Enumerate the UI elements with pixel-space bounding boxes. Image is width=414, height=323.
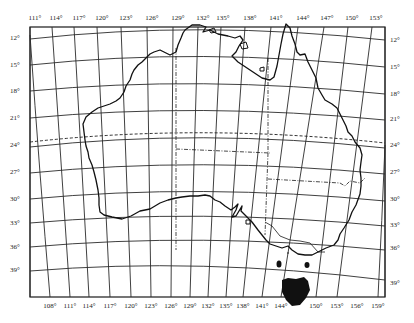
latitude-label: 21° [390,115,400,123]
latitude-label: 12° [390,36,400,44]
longitude-label: 117° [103,302,116,310]
latitude-label: 30° [10,195,20,203]
longitude-label: 141° [269,14,282,22]
tasmania [277,252,311,306]
latitude-label: 18° [10,87,20,95]
latitude-label: 24° [390,141,400,149]
longitude-label: 129° [183,302,196,310]
longitude-label: 141° [255,302,268,310]
vic-nsw-border [265,222,325,252]
longitude-label: 132° [201,302,214,310]
longitude-label: 111° [29,14,42,22]
longitude-label: 138° [243,14,256,22]
latitude-grid-lines [30,30,385,280]
longitude-label: 108° [43,302,56,310]
longitude-label: 156° [350,302,363,310]
longitude-label: 147° [320,14,333,22]
latitude-label: 12° [10,34,20,42]
longitude-label: 123° [144,302,157,310]
state-borders [176,48,365,250]
latitude-label: 15° [390,63,400,71]
longitude-label: 126° [164,302,177,310]
longitude-label: 114° [82,302,95,310]
latitude-label: 15° [10,61,20,69]
longitude-label: 153° [369,14,382,22]
longitude-label: 132° [196,14,209,22]
longitude-label: 135° [216,14,229,22]
longitude-label: 120° [124,302,137,310]
latitude-label: 27° [10,168,20,176]
longitude-label: 126° [145,14,158,22]
longitude-label: 129° [171,14,184,22]
latitude-label: 36° [390,244,400,252]
latitude-label: 33° [10,219,20,227]
longitude-label: 144° [296,14,309,22]
longitude-label: 123° [119,14,132,22]
latitude-label: 30° [390,195,400,203]
longitude-label: 111° [64,302,77,310]
longitude-label: 150° [309,302,322,310]
latitude-label: 39° [390,279,400,287]
longitude-label: 114° [49,14,62,22]
longitude-label: 150° [345,14,358,22]
longitude-grid-lines [30,27,385,297]
latitude-label: 36° [10,243,20,251]
longitude-label: 144° [274,302,287,310]
latitude-label: 18° [390,90,400,98]
latitude-label: 27° [390,168,400,176]
latitude-label: 21° [10,114,20,122]
latitude-label: 24° [10,141,20,149]
longitude-label: 135° [219,302,232,310]
australia-map [0,0,414,323]
latitude-label: 39° [10,266,20,274]
longitude-label: 120° [95,14,108,22]
longitude-label: 159° [371,302,384,310]
latitude-label: 33° [390,221,400,229]
longitude-label: 117° [72,14,85,22]
longitude-label: 153° [330,302,343,310]
longitude-label: 138° [236,302,249,310]
